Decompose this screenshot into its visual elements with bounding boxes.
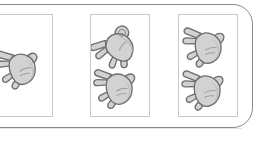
- hand-open-palm: [0, 34, 53, 100]
- hand-open-palm: [178, 58, 238, 117]
- card-2[interactable]: [90, 14, 150, 117]
- hand-open-palm: [90, 55, 150, 117]
- card-1[interactable]: [0, 14, 53, 117]
- scene-root: [0, 0, 257, 143]
- card-group: [0, 0, 257, 143]
- card-3[interactable]: [178, 14, 238, 117]
